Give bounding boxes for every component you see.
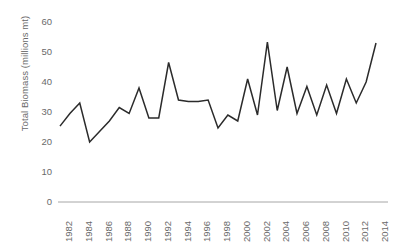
biomass-line-series [60,42,376,142]
x-tick-label: 1992 [163,221,173,242]
x-tick-label: 2014 [380,221,390,242]
x-tick-label: 2012 [360,221,370,242]
x-tick-label: 1982 [64,221,74,242]
x-tick-label: 2010 [341,221,351,242]
x-tick-label: 2004 [281,221,291,242]
x-tick-label: 1990 [143,221,153,242]
x-tick-label: 2000 [242,221,252,242]
x-tick-label: 1986 [104,221,114,242]
line-chart: Total Biomass (millions mt) 010203040506… [0,0,394,246]
x-tick-label: 2002 [262,221,272,242]
x-tick-label: 2006 [301,221,311,242]
x-tick-label: 1994 [183,221,193,242]
plot-area [0,0,394,246]
x-tick-label: 1998 [222,221,232,242]
x-tick-label: 2008 [321,221,331,242]
x-tick-label: 1988 [123,221,133,242]
x-tick-label: 1996 [202,221,212,242]
x-tick-label: 1984 [84,221,94,242]
